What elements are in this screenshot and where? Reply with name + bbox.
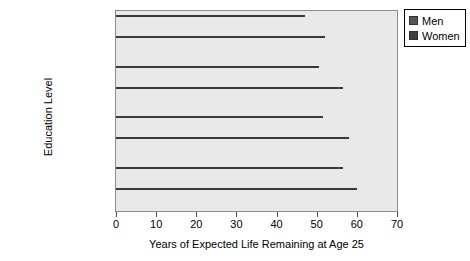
- bar-women-0: [116, 36, 325, 38]
- x-tick-label-0: 0: [101, 218, 131, 230]
- x-tick-50: [317, 212, 318, 217]
- x-tick-10: [156, 212, 157, 217]
- plot-area: [115, 10, 398, 212]
- x-tick-30: [236, 212, 237, 217]
- x-tick-60: [357, 212, 358, 217]
- x-tick-label-10: 10: [141, 218, 171, 230]
- y-axis-title: Education Level: [42, 47, 54, 187]
- bar-men-1: [116, 66, 319, 68]
- x-tick-label-70: 70: [382, 218, 412, 230]
- bar-men-2: [116, 116, 323, 118]
- legend: Men Women: [404, 9, 466, 47]
- x-tick-40: [277, 212, 278, 217]
- x-tick-0: [116, 212, 117, 217]
- x-tick-20: [196, 212, 197, 217]
- x-tick-label-50: 50: [302, 218, 332, 230]
- bars-layer: [116, 11, 397, 211]
- x-tick-label-30: 30: [221, 218, 251, 230]
- bar-women-2: [116, 137, 349, 139]
- bar-women-1: [116, 87, 343, 89]
- x-tick-label-20: 20: [181, 218, 211, 230]
- bar-men-0: [116, 15, 305, 17]
- legend-item-men: Men: [409, 13, 460, 28]
- legend-label-women: Women: [422, 30, 460, 42]
- x-tick-label-60: 60: [342, 218, 372, 230]
- legend-swatch-women-icon: [409, 31, 418, 40]
- x-tick-label-40: 40: [262, 218, 292, 230]
- x-tick-70: [397, 212, 398, 217]
- legend-label-men: Men: [422, 15, 443, 27]
- x-axis-title: Years of Expected Life Remaining at Age …: [115, 238, 398, 250]
- bar-chart: Education Level No High SchoolDiplomaHig…: [0, 0, 470, 261]
- legend-swatch-men-icon: [409, 16, 418, 25]
- legend-item-women: Women: [409, 28, 460, 43]
- bar-men-3: [116, 167, 343, 169]
- bar-women-3: [116, 188, 357, 190]
